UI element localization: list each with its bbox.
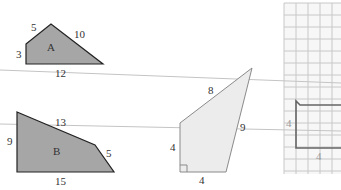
shape-b-side-left: 9 [7, 135, 13, 147]
shape-b-side-right: 5 [106, 147, 112, 159]
diagram-canvas: A 3 5 10 12 B 9 13 5 15 8 9 4 4 4 4 [0, 0, 341, 190]
quad-side-left: 4 [170, 141, 176, 153]
shape-b-side-top: 13 [55, 116, 67, 128]
grid-figure-side-bottom: 4 [316, 150, 322, 162]
quad-side-bottom: 4 [199, 174, 205, 186]
shape-a-side-left: 3 [16, 48, 22, 60]
quad-side-top: 8 [208, 84, 214, 96]
quad-side-right: 9 [240, 121, 246, 133]
shape-b-side-bottom: 15 [55, 175, 67, 187]
shape-a-label: A [47, 41, 55, 53]
shape-a-side-top-left: 5 [31, 21, 37, 33]
quadrilateral [180, 68, 252, 172]
shape-b-label: B [53, 145, 60, 157]
grid-figure-side-left: 4 [286, 117, 292, 129]
shape-a-side-top-right: 10 [74, 28, 86, 40]
shape-a-side-bottom: 12 [55, 67, 66, 79]
shape-a [26, 24, 103, 64]
